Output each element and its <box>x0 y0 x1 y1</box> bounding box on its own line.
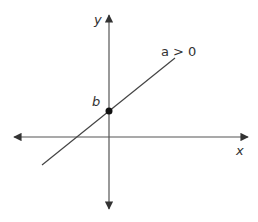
x-axis-label: x <box>235 143 244 158</box>
y-axis-label: y <box>93 12 102 27</box>
coordinate-plane: y x b a > 0 <box>0 0 258 222</box>
y-intercept-point <box>106 108 113 115</box>
intercept-label: b <box>92 94 100 109</box>
slope-label: a > 0 <box>161 44 196 59</box>
